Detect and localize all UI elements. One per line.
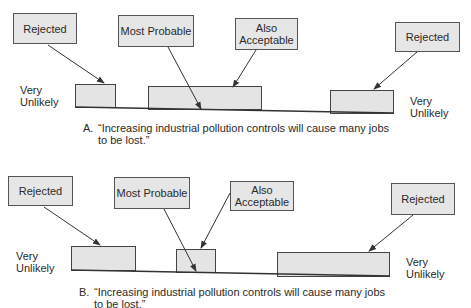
- arrow-most-probable-a: [168, 47, 201, 109]
- arrow-rejected-right-b: [369, 215, 413, 251]
- arrow-also-acceptable-b: [201, 193, 230, 248]
- arrow-most-probable-b: [164, 209, 196, 271]
- connector-layer: [0, 0, 471, 308]
- arrow-also-acceptable-a: [233, 50, 256, 87]
- baseline-a: [75, 107, 394, 113]
- arrow-rejected-left-a: [48, 45, 104, 83]
- baseline-b: [71, 270, 390, 276]
- arrow-rejected-right-a: [374, 52, 417, 89]
- arrow-rejected-left-b: [44, 207, 100, 245]
